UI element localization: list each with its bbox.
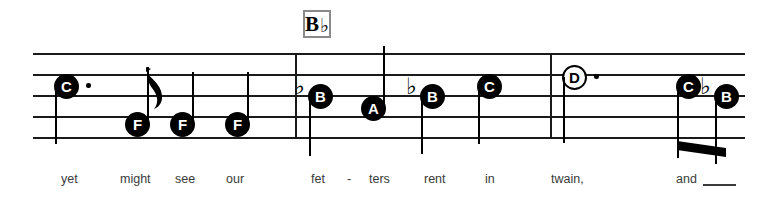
note-stem xyxy=(55,86,57,144)
note-stem xyxy=(383,46,385,108)
lyric-syllable: our xyxy=(226,172,244,186)
lyric-syllable: fet xyxy=(311,172,325,186)
barline-2 xyxy=(550,53,552,138)
sheet-music-page: B♭ CFFFB♭AB♭CDCB♭ yetmightseeourfet-ters… xyxy=(0,0,772,199)
melisma-line xyxy=(703,184,736,186)
chord-root-label: B xyxy=(305,14,319,35)
lyric-syllable: in xyxy=(485,172,495,186)
note-stem xyxy=(421,96,423,154)
notehead-b[interactable]: B xyxy=(714,84,739,109)
notehead-d[interactable]: D xyxy=(562,65,587,90)
note-stem xyxy=(309,96,311,156)
notehead-c[interactable]: C xyxy=(676,74,701,99)
lyric-syllable: rent xyxy=(424,172,446,186)
lyric-syllable: ters xyxy=(369,172,390,186)
lyric-syllable: yet xyxy=(61,172,78,186)
notehead-c[interactable]: C xyxy=(477,74,502,99)
staff-line-5 xyxy=(33,137,745,139)
lyric-syllable: might xyxy=(120,172,151,186)
lyric-hyphen: - xyxy=(347,172,351,186)
flat-accidental: ♭ xyxy=(700,75,711,98)
note-stem xyxy=(563,77,565,143)
note-stem xyxy=(192,72,194,124)
augmentation-dot xyxy=(86,83,91,88)
chord-symbol-box: B♭ xyxy=(303,10,331,38)
staff-line-1 xyxy=(33,53,745,55)
barline-1 xyxy=(295,53,297,138)
lyric-syllable: see xyxy=(175,172,195,186)
beam-final-pair xyxy=(677,141,726,157)
staff-line-3 xyxy=(33,95,745,97)
note-stem xyxy=(478,86,480,144)
eighth-note-flag xyxy=(146,67,168,113)
note-stem xyxy=(247,72,249,124)
staff-line-2 xyxy=(33,74,745,76)
augmentation-dot xyxy=(594,74,599,79)
notehead-b[interactable]: B xyxy=(420,84,445,109)
flat-accidental: ♭ xyxy=(406,75,417,98)
lyric-syllable: and xyxy=(676,172,697,186)
lyric-syllable: twain, xyxy=(551,172,584,186)
notehead-c[interactable]: C xyxy=(54,74,79,99)
notehead-b[interactable]: B xyxy=(308,84,333,109)
chord-accidental-label: ♭ xyxy=(320,16,329,35)
